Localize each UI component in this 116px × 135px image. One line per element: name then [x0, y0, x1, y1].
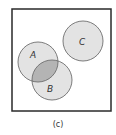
set-a-label: A: [29, 50, 36, 60]
figure-caption: (c): [0, 120, 116, 129]
set-b-label: B: [47, 84, 53, 94]
venn-diagram: A B C: [0, 0, 116, 118]
set-c-label: C: [79, 37, 86, 47]
